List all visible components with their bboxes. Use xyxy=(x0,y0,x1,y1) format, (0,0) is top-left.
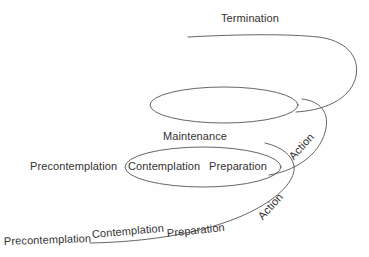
upper-action-arc xyxy=(269,99,327,175)
maintenance-ellipse xyxy=(150,87,298,123)
label-contemplation-middle: Contemplation xyxy=(128,160,200,173)
label-precontemplation-middle: Precontemplation xyxy=(30,160,117,173)
spiral-diagram xyxy=(0,0,369,257)
label-termination: Termination xyxy=(221,12,279,25)
top-loop-arc xyxy=(188,35,357,112)
label-maintenance: Maintenance xyxy=(163,130,227,143)
label-preparation-middle: Preparation xyxy=(209,160,267,173)
stages-of-change-figure: Termination Action Maintenance Precontem… xyxy=(0,0,369,257)
